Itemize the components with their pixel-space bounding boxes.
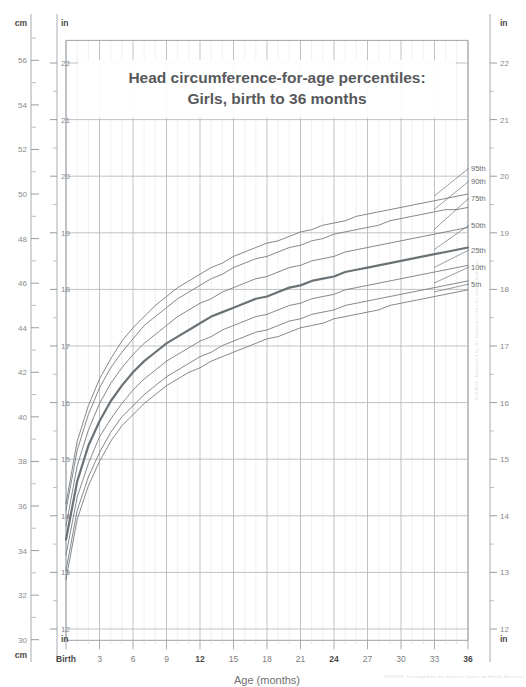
cm-tick-label: 42: [18, 368, 27, 377]
in-unit-bottom-left: in: [61, 634, 69, 644]
cm-tick-label: 56: [18, 56, 27, 65]
x-tick-label: 15: [229, 654, 239, 664]
in-tick-label-right: 21: [500, 116, 509, 125]
cm-tick-label: 54: [18, 101, 27, 110]
x-tick-label: 27: [363, 654, 373, 664]
in-tick-label-left: 12: [61, 625, 70, 634]
chart-title-line2: Girls, birth to 36 months: [187, 90, 366, 107]
in-tick-label-right: 13: [500, 568, 509, 577]
x-tick-label: 21: [296, 654, 306, 664]
in-unit-top-right: in: [500, 18, 508, 28]
cm-tick-label: 40: [18, 413, 27, 422]
x-tick-label: 12: [195, 654, 205, 664]
percentile-label-95th: 95th: [471, 164, 486, 173]
cm-tick-label: 46: [18, 279, 27, 288]
in-tick-label-right: 18: [500, 285, 509, 294]
x-tick-label: Birth: [56, 654, 76, 664]
x-tick-label: 6: [131, 654, 136, 664]
in-unit-bottom-right: in: [500, 634, 508, 644]
in-tick-label-left: 17: [61, 342, 70, 351]
in-tick-label-left: 20: [61, 172, 70, 181]
x-tick-label: 3: [97, 654, 102, 664]
x-tick-label: 30: [396, 654, 406, 664]
x-tick-label: 24: [329, 654, 339, 664]
x-axis-title: Age (months): [234, 674, 300, 686]
chart-title-line1: Head circumference-for-age percentiles:: [128, 69, 425, 86]
in-tick-label-left: 22: [61, 59, 70, 68]
in-tick-label-right: 19: [500, 229, 509, 238]
cm-tick-label: 30: [18, 636, 27, 645]
cm-unit-bottom: cm: [15, 650, 28, 660]
in-tick-label-right: 20: [500, 172, 509, 181]
in-tick-label-right: 16: [500, 399, 509, 408]
cm-tick-label: 38: [18, 457, 27, 466]
in-tick-label-left: 15: [61, 455, 70, 464]
in-tick-label-right: 12: [500, 625, 509, 634]
in-tick-label-left: 16: [61, 399, 70, 408]
x-tick-label: 9: [164, 654, 169, 664]
cm-unit-top: cm: [15, 18, 28, 28]
in-tick-label-right: 15: [500, 455, 509, 464]
x-tick-label: 36: [463, 654, 473, 664]
cm-tick-label: 32: [18, 591, 27, 600]
cm-tick-label: 48: [18, 235, 27, 244]
percentile-label-90th: 90th: [471, 177, 486, 186]
source-watermark: SOURCE: Developed by the National Center…: [384, 674, 524, 679]
in-tick-label-left: 13: [61, 568, 70, 577]
in-tick-label-right: 17: [500, 342, 509, 351]
cm-tick-label: 50: [18, 190, 27, 199]
percentile-label-50th: 50th: [471, 221, 486, 230]
in-tick-label-right: 22: [500, 59, 509, 68]
in-tick-label-right: 14: [500, 512, 509, 521]
cm-tick-label: 52: [18, 145, 27, 154]
growth-chart: 3032343638404244464850525456121213131414…: [0, 0, 526, 687]
source-watermark-vertical: SOURCE: Developed by the National Center…: [474, 260, 479, 400]
in-tick-label-left: 19: [61, 229, 70, 238]
x-tick-label: 33: [430, 654, 440, 664]
percentile-label-25th: 25th: [471, 246, 486, 255]
cm-tick-label: 36: [18, 502, 27, 511]
chart-svg: 3032343638404244464850525456121213131414…: [0, 0, 526, 687]
percentile-label-75th: 75th: [471, 194, 486, 203]
in-unit-top-left: in: [61, 18, 69, 28]
in-tick-label-left: 18: [61, 285, 70, 294]
cm-tick-label: 44: [18, 324, 27, 333]
x-tick-label: 18: [262, 654, 272, 664]
cm-tick-label: 34: [18, 547, 27, 556]
in-tick-label-left: 21: [61, 116, 70, 125]
